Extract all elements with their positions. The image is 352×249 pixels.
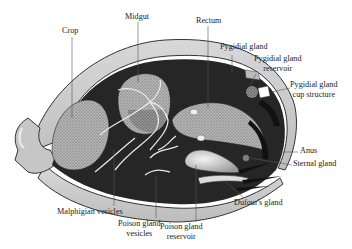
beetle-abdomen-diagram: [0, 0, 352, 249]
label-line-2: vesicles: [118, 229, 161, 239]
label-line-1: Pygidial gland: [254, 54, 302, 64]
label-poison-gland-vesicles: Poison gland vesicles: [118, 219, 161, 238]
label-dufours-gland: Dufour's gland: [234, 198, 283, 208]
label-line-1: Poison gland: [160, 222, 203, 232]
label-line-2: reservoir: [254, 64, 302, 74]
label-malphigian-vesicles: Malphigian vesicles: [57, 207, 123, 217]
label-pygidial-gland-cup-structure: Pygidial gland cup structure: [290, 80, 338, 99]
label-crop: Crop: [62, 26, 78, 36]
label-midgut: Midgut: [125, 12, 149, 22]
label-line-1: Poison gland: [118, 219, 161, 229]
label-rectum: Rectum: [196, 16, 221, 26]
label-line-2: cup structure: [290, 90, 338, 100]
label-pygidial-gland-reservoir: Pygidial gland reservoir: [254, 54, 302, 73]
sternal-gland-organ: [243, 155, 250, 162]
label-pygidial-gland: Pygidial gland: [220, 42, 268, 52]
label-poison-gland-reservoir: Poison gland reservoir: [160, 222, 203, 241]
label-line-2: reservoir: [160, 232, 203, 242]
label-anus: Anus: [300, 146, 317, 156]
label-line-1: Pygidial gland: [290, 80, 338, 90]
label-sternal-gland: Sternal gland: [293, 159, 336, 169]
